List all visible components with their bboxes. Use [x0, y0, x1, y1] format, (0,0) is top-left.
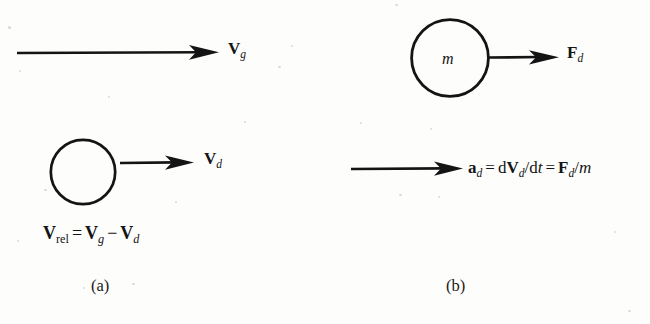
gas-velocity-subscript: g: [240, 48, 246, 61]
eq-b-diff-d2: d: [529, 158, 538, 177]
droplet-velocity-subscript: d: [216, 158, 222, 171]
drag-force-label: Fd: [567, 44, 583, 64]
eq-a-sub-rel: rel: [56, 232, 69, 246]
drag-force-arrow: [487, 46, 565, 70]
panel-a: Vg Vd Vrel=Vg−Vd (a): [0, 0, 325, 324]
eq-a-equals: =: [69, 223, 85, 243]
eq-a-term-v1: V: [43, 223, 56, 243]
panel-b: m Fd ad=dVd/dt=Fd/m (b): [325, 0, 650, 324]
drag-force-subscript: d: [577, 52, 583, 65]
droplet-velocity-arrow: [118, 152, 200, 176]
eq-b-term-a: a: [468, 158, 477, 177]
eq-a-minus: −: [104, 223, 120, 243]
eq-a-term-v3: V: [120, 223, 133, 243]
gas-velocity-label: Vg: [228, 40, 246, 60]
eq-a-term-v2: V: [85, 223, 98, 243]
figure-canvas: Vg Vd Vrel=Vg−Vd (a) m: [0, 0, 650, 324]
gas-velocity-arrow: [14, 38, 229, 68]
eq-b-term-v: V: [506, 158, 518, 177]
droplet-acceleration-arrow: [349, 158, 467, 182]
eq-b-term-f: F: [558, 158, 568, 177]
panel-b-caption: (b): [446, 276, 465, 296]
acceleration-equation: ad=dVd/dt=Fd/m: [468, 159, 591, 179]
relative-velocity-equation: Vrel=Vg−Vd: [43, 224, 139, 245]
gas-velocity-symbol: V: [228, 39, 240, 58]
eq-b-term-m: m: [579, 158, 591, 177]
droplet-velocity-label: Vd: [204, 150, 222, 170]
droplet-velocity-symbol: V: [204, 149, 216, 168]
eq-a-sub-d: d: [133, 232, 139, 246]
drag-force-symbol: F: [567, 43, 577, 62]
mass-circle-label: m: [442, 50, 454, 68]
panel-a-caption: (a): [91, 276, 109, 296]
droplet-circle: [40, 138, 130, 210]
eq-b-equals-2: =: [542, 158, 558, 177]
eq-b-equals-1: =: [482, 158, 498, 177]
